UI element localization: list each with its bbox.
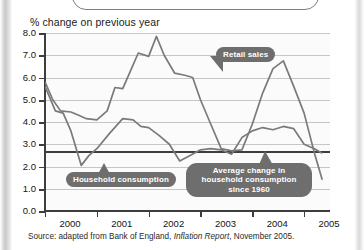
x-axis-label: 2000 [47,218,93,229]
x-axis-label: 2005 [306,218,352,229]
x-axis-tick [304,210,305,217]
x-axis-tick [97,210,98,217]
y-axis-label: 7.0 [0,49,36,60]
source-suffix: , November 2005. [229,232,294,241]
callout-household-consumption: Household consumption [66,172,176,187]
x-axis-tick [200,210,201,217]
callout-average-change-label: Average change in household consumption … [202,166,297,194]
x-axis-label: 2003 [202,218,248,229]
x-axis-tick [149,210,150,217]
y-axis-label: 6.0 [0,72,36,83]
x-axis-label: 2001 [99,218,145,229]
x-axis-label: 2004 [254,218,300,229]
x-axis-tick [252,210,253,217]
y-axis-label: 8.0 [0,27,36,38]
callout-average-change-tail [258,151,274,167]
y-axis-tick [39,100,46,102]
callout-average-change: Average change in household consumption … [186,163,312,197]
x-axis-tick [45,210,46,217]
source-prefix: Source: adapted from Bank of England, [28,232,174,241]
x-axis-label: 2002 [151,218,197,229]
y-axis-tick [39,167,46,169]
callout-retail-sales: Retail sales [216,47,275,62]
y-axis-title: % change on previous year [30,16,160,28]
y-axis-tick [39,189,46,191]
y-axis-label: 1.0 [0,183,36,194]
page-right-edge [355,0,364,250]
y-axis-tick [39,33,46,35]
series-line-household-consumption [45,86,322,165]
y-axis-label: 0.0 [0,205,36,216]
callout-household-consumption-tail [97,163,111,176]
y-axis-tick [39,78,46,80]
y-axis-tick [39,55,46,57]
source-caption: Source: adapted from Bank of England, In… [28,232,294,241]
y-axis-tick [39,122,46,124]
y-axis-tick [39,144,46,146]
source-publication: Inflation Report [174,232,230,241]
callout-retail-sales-tail [210,56,223,72]
top-rounded-box [72,0,319,10]
y-axis-label: 2.0 [0,161,36,172]
y-axis-label: 4.0 [0,116,36,127]
y-axis-label: 5.0 [0,94,36,105]
y-axis-label: 3.0 [0,138,36,149]
callout-household-consumption-label: Household consumption [73,175,169,184]
callout-retail-sales-label: Retail sales [223,50,268,59]
